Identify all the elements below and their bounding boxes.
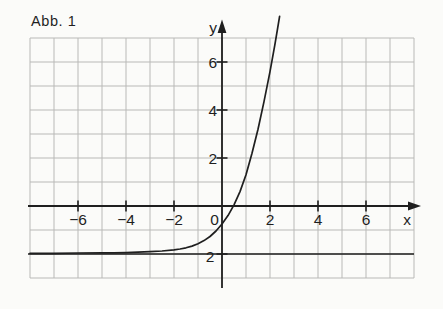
x-tick-label-2: 2 xyxy=(266,211,275,228)
y-axis-label: y xyxy=(209,19,217,36)
x-tick-label-4: 4 xyxy=(314,211,323,228)
exponential-function-chart: −6−4−22460x2462y xyxy=(0,0,443,309)
origin-label: 0 xyxy=(210,211,219,228)
curve-exponential-curve xyxy=(30,16,280,253)
scanned-textbook-figure: Abb. 1 −6−4−22460x2462y xyxy=(0,0,443,309)
y-tick-label-6: 6 xyxy=(208,54,217,71)
x-tick-label--4: −4 xyxy=(117,211,135,228)
x-tick-label--6: −6 xyxy=(69,211,87,228)
x-tick-label-6: 6 xyxy=(362,211,371,228)
y-tick-label-4: 4 xyxy=(208,102,217,119)
x-axis-label: x xyxy=(403,211,411,228)
x-tick-label--2: −2 xyxy=(165,211,183,228)
y-axis-arrowhead xyxy=(218,20,227,34)
y-tick-label-2: 2 xyxy=(208,150,217,167)
y-tick-label-minus-2: 2 xyxy=(206,248,215,265)
